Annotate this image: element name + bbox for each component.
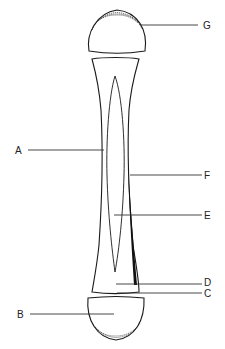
label-d: D — [204, 277, 211, 288]
label-b: B — [17, 309, 24, 320]
label-a: A — [15, 145, 22, 156]
lower-epiphysis — [88, 297, 144, 341]
diaphysis — [92, 58, 139, 294]
bone-diagram: G A F E D C B — [0, 0, 225, 349]
label-f: F — [204, 170, 210, 181]
label-g: G — [203, 20, 211, 31]
label-c: C — [204, 288, 211, 299]
upper-epiphysis — [88, 10, 145, 53]
label-e: E — [204, 210, 211, 221]
